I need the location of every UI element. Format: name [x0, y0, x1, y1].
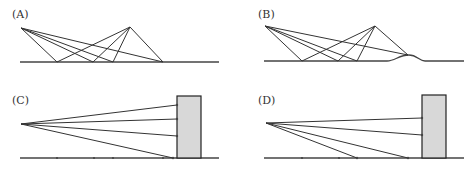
panel-c: (C)	[12, 94, 219, 159]
incident-ray	[21, 28, 93, 62]
wall-block	[422, 95, 446, 158]
panel-label: (C)	[12, 94, 29, 107]
ground-tick	[93, 157, 95, 159]
ground-tick	[338, 157, 340, 159]
ground-tick	[301, 157, 303, 159]
wall-hit-marker	[176, 135, 178, 137]
reflected-ray	[302, 26, 375, 61]
ground-hit-marker	[172, 157, 174, 159]
ray-to-ground	[266, 123, 357, 158]
ground-tick	[162, 157, 164, 159]
ground-tick	[56, 157, 58, 159]
reflected-ray	[57, 27, 130, 62]
ground-hit-marker	[407, 157, 409, 159]
wall-block	[177, 96, 201, 158]
incident-ray	[265, 26, 357, 61]
panel-b: (B)	[258, 8, 464, 61]
reflected-ray	[375, 26, 408, 55]
reflected-ray	[130, 27, 163, 62]
ray-to-wall	[21, 124, 177, 136]
panel-d: (D)	[258, 94, 464, 159]
wall-hit-marker	[176, 104, 178, 106]
reflected-ray	[113, 27, 130, 62]
panel-label: (A)	[12, 8, 29, 21]
reflected-ray	[357, 26, 375, 61]
wall-hit-marker	[421, 117, 423, 119]
incident-ray	[265, 26, 338, 61]
incident-ray	[21, 28, 163, 62]
ray-to-wall	[266, 118, 422, 123]
panel-a: (A)	[12, 8, 219, 62]
diagram-canvas: (A) (B) (C) (D)	[0, 0, 476, 171]
ray-to-ground	[21, 124, 173, 158]
wall-hit-marker	[176, 118, 178, 120]
wall-hit-marker	[421, 134, 423, 136]
incident-ray	[21, 28, 57, 62]
incident-ray	[265, 26, 302, 61]
panel-label: (B)	[258, 8, 275, 21]
panel-label: (D)	[258, 94, 275, 107]
incident-ray	[265, 26, 408, 55]
ground-tick	[112, 157, 114, 159]
ground-line	[264, 55, 464, 61]
ground-hit-marker	[356, 157, 358, 159]
